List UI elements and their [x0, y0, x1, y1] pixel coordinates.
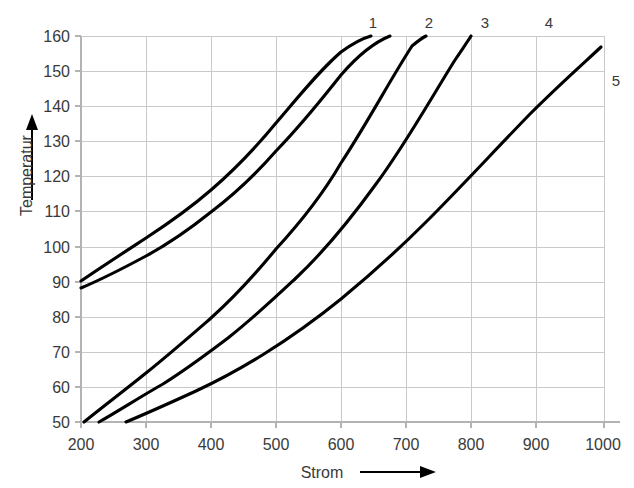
x-tick-label-600: 600	[328, 436, 355, 453]
y-axis-label: Temperatur	[18, 134, 35, 216]
curve-label-3: 3	[481, 14, 489, 31]
curve-label-4: 4	[545, 14, 553, 31]
y-tick-label-160: 160	[43, 28, 70, 45]
x-tick-label-400: 400	[198, 436, 225, 453]
curve-label-5: 5	[612, 72, 620, 89]
y-tick-labels: 160 150 140 130 120 110 100 90 80 70 60 …	[43, 28, 70, 431]
x-axis-label-group: Strom	[301, 464, 436, 481]
y-tick-label-120: 120	[43, 168, 70, 185]
y-tick-label-70: 70	[52, 344, 70, 361]
chart-svg: 160 150 140 130 120 110 100 90 80 70 60 …	[0, 0, 634, 488]
x-tick-label-900: 900	[523, 436, 550, 453]
y-tick-label-50: 50	[52, 414, 70, 431]
right-arrow-icon	[420, 466, 436, 478]
x-tick-marks	[81, 422, 604, 428]
up-arrow-icon	[26, 114, 38, 130]
y-tick-label-90: 90	[52, 274, 70, 291]
x-tick-labels: 200 300 400 500 600 700 800 900 1000	[68, 436, 621, 453]
y-tick-label-100: 100	[43, 239, 70, 256]
temperature-current-chart: 160 150 140 130 120 110 100 90 80 70 60 …	[0, 0, 634, 488]
y-tick-label-140: 140	[43, 98, 70, 115]
x-tick-label-800: 800	[458, 436, 485, 453]
y-tick-marks	[75, 36, 81, 422]
y-tick-label-110: 110	[44, 203, 70, 220]
x-tick-label-200: 200	[68, 436, 95, 453]
y-tick-label-60: 60	[52, 379, 70, 396]
y-tick-label-130: 130	[43, 133, 70, 150]
x-axis-label: Strom	[301, 464, 344, 481]
y-tick-label-80: 80	[52, 309, 70, 326]
x-tick-label-1000: 1000	[585, 436, 621, 453]
x-tick-label-500: 500	[263, 436, 290, 453]
y-tick-label-150: 150	[43, 63, 70, 80]
x-tick-label-300: 300	[133, 436, 160, 453]
curve-label-1: 1	[369, 14, 377, 31]
x-tick-label-700: 700	[393, 436, 420, 453]
y-axis-label-group: Temperatur	[18, 114, 38, 216]
curve-label-2: 2	[425, 14, 433, 31]
